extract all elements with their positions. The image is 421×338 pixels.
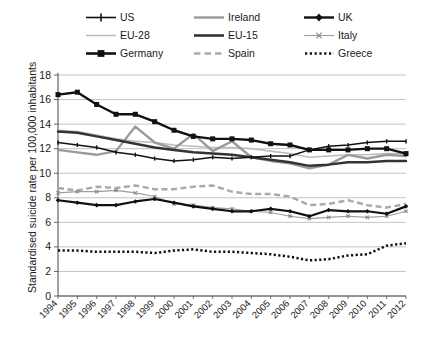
x-tick-label: 2008: [307, 298, 330, 321]
chart-canvas: 024681012141618 199419951996199719981999…: [0, 64, 421, 338]
data-point: [365, 209, 370, 214]
data-point: [133, 112, 138, 117]
data-point: [114, 203, 119, 208]
data-point: [75, 90, 80, 95]
legend-marker-spain-icon: [194, 48, 224, 59]
data-point: [56, 198, 61, 203]
x-tick-label: 2005: [249, 298, 272, 321]
series-layer: [56, 90, 409, 261]
legend-marker-greece-icon: [304, 48, 334, 59]
x-tick-label: 1997: [95, 298, 118, 321]
x-tick-label: 1999: [133, 298, 156, 321]
x-tick-label: 1998: [114, 298, 137, 321]
chart-plot-area: Standardised suicide rate per 100,000 in…: [0, 64, 421, 338]
legend-item-spain: Spain: [194, 47, 304, 59]
y-tick-label: 14: [39, 118, 51, 130]
y-tick-label: 6: [45, 216, 51, 228]
legend-label-spain: Spain: [228, 47, 255, 59]
legend-label-us: US: [120, 11, 135, 23]
x-tick-label: 2011: [366, 298, 388, 320]
legend-label-uk: UK: [338, 11, 353, 23]
x-tick-label: 2009: [327, 298, 350, 321]
x-tick-label: 2001: [172, 298, 195, 321]
x-tick-label: 2006: [269, 298, 292, 321]
gridlines: [58, 75, 406, 296]
x-tick-label: 2002: [191, 298, 214, 321]
legend-item-germany: Germany: [86, 47, 194, 59]
data-point: [114, 112, 119, 117]
x-tick-label: 1994: [37, 298, 60, 321]
legend-marker-italy-icon: [304, 30, 334, 41]
x-tick-label: 2010: [346, 298, 369, 321]
legend-label-eu28: EU-28: [120, 29, 150, 41]
y-tick-label: 12: [39, 142, 51, 154]
series-greece: [58, 243, 406, 260]
x-tick-label: 2004: [230, 298, 253, 321]
y-tick-label: 4: [45, 240, 51, 252]
data-point: [346, 209, 351, 214]
legend-marker-uk-icon: [304, 12, 334, 23]
x-axis-ticks: 1994199519961997199819992000200120022003…: [37, 296, 408, 320]
y-tick-label: 8: [45, 191, 51, 203]
x-tick-label: 2003: [211, 298, 234, 321]
data-point: [268, 141, 273, 146]
data-point: [346, 147, 351, 152]
data-point: [307, 147, 312, 152]
legend-item-us: US: [86, 11, 194, 23]
data-point: [75, 200, 80, 205]
legend-label-greece: Greece: [338, 47, 372, 59]
chart-figure: US Ireland UK: [0, 0, 421, 338]
data-point: [384, 146, 389, 151]
data-point: [288, 209, 293, 214]
y-axis-title: Standardised suicide rate per 100,000 in…: [26, 63, 38, 293]
legend-item-greece: Greece: [304, 47, 416, 59]
legend-marker-ireland-icon: [194, 12, 224, 23]
data-point: [230, 136, 235, 141]
legend-item-uk: UK: [304, 11, 416, 23]
data-point: [191, 134, 196, 139]
data-point: [288, 142, 293, 147]
y-tick-label: 16: [39, 93, 51, 105]
legend-label-germany: Germany: [120, 47, 163, 59]
legend-marker-us-icon: [86, 12, 116, 23]
data-point: [210, 136, 215, 141]
data-point: [249, 138, 254, 143]
x-tick-label: 2007: [288, 298, 311, 321]
data-point: [172, 128, 177, 133]
y-axis-ticks: 024681012141618: [39, 69, 58, 302]
x-tick-label: 1996: [75, 298, 98, 321]
legend-label-ireland: Ireland: [228, 11, 260, 23]
data-point: [152, 119, 157, 124]
legend-item-ireland: Ireland: [194, 11, 304, 23]
y-tick-label: 2: [45, 265, 51, 277]
legend-item-eu15: EU-15: [194, 29, 304, 41]
series-line: [58, 199, 406, 216]
legend-marker-eu15-icon: [194, 30, 224, 41]
legend-label-eu15: EU-15: [228, 29, 258, 41]
series-line: [58, 243, 406, 260]
legend-item-italy: Italy: [304, 29, 416, 41]
x-tick-label: 2012: [385, 298, 408, 321]
legend-label-italy: Italy: [338, 29, 357, 41]
legend-marker-germany-icon: [86, 48, 116, 59]
y-tick-label: 18: [39, 69, 51, 81]
chart-legend: US Ireland UK: [86, 8, 416, 64]
y-tick-label: 10: [39, 167, 51, 179]
data-point: [94, 102, 99, 107]
data-point: [326, 147, 331, 152]
data-point: [404, 151, 409, 156]
legend-marker-eu28-icon: [86, 30, 116, 41]
data-point: [56, 92, 61, 97]
data-point: [365, 146, 370, 151]
series-uk: [56, 197, 409, 219]
x-tick-label: 2000: [153, 298, 176, 321]
data-point: [94, 203, 99, 208]
data-point: [133, 199, 138, 204]
legend-item-eu28: EU-28: [86, 29, 194, 41]
x-tick-label: 1995: [56, 298, 79, 321]
axis-lines: [58, 73, 406, 296]
data-point: [268, 207, 273, 212]
